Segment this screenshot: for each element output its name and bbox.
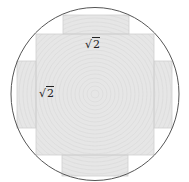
- cross-in-circle-figure: [0, 0, 189, 182]
- diagram: √2 √2: [0, 0, 189, 182]
- cross-shape: [0, 0, 189, 182]
- sqrt-symbol: √: [39, 87, 46, 100]
- sqrt-symbol: √: [85, 38, 92, 51]
- top-side-length-label: √2: [85, 39, 100, 50]
- left-side-length-label: √2: [39, 88, 54, 99]
